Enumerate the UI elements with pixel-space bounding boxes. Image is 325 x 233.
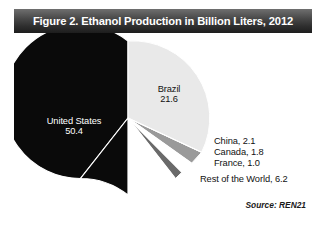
pie-label-france: France, 1.0	[214, 158, 260, 168]
figure-card: Figure 2. Ethanol Production in Billion …	[14, 9, 312, 214]
pie-chart-plot-area: United States 50.4 Brazil 21.6 China, 2.…	[14, 33, 312, 214]
pie-label-canada: Canada, 1.8	[214, 147, 264, 157]
pie-label-united-states-name: United States	[47, 116, 102, 126]
pie-label-united-states: United States 50.4	[28, 116, 120, 137]
pie-label-china: China, 2.1	[214, 136, 255, 146]
pie-label-rest-of-world: Rest of the World, 6.2	[200, 174, 288, 184]
pie-label-brazil-name: Brazil	[158, 84, 181, 94]
pie-label-brazil: Brazil 21.6	[138, 84, 200, 105]
pie-label-united-states-value: 50.4	[65, 126, 83, 136]
pie-label-brazil-value: 21.6	[160, 94, 178, 104]
figure-title: Figure 2. Ethanol Production in Billion …	[14, 9, 312, 33]
figure-source: Source: REN21	[245, 200, 306, 210]
